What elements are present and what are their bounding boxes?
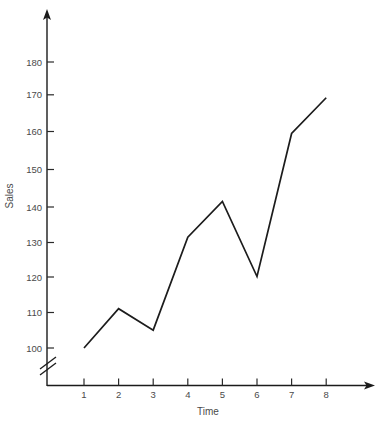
x-tick-label: 8 xyxy=(324,389,329,400)
x-tick-label: 1 xyxy=(81,389,86,400)
y-tick-100: 100 xyxy=(26,343,54,354)
x-tick-1: 1 xyxy=(81,379,86,401)
y-tick-label: 100 xyxy=(26,343,42,354)
y-axis-break-icon xyxy=(40,357,56,375)
x-axis-title: Time xyxy=(197,406,219,417)
y-tick-120: 120 xyxy=(26,272,54,283)
y-tick-label: 120 xyxy=(26,272,42,283)
line-chart: 180 170 160 150 140 130 xyxy=(0,0,383,424)
chart-page: 180 170 160 150 140 130 xyxy=(0,0,383,424)
y-tick-label: 140 xyxy=(26,202,42,213)
x-tick-6: 6 xyxy=(254,379,259,401)
y-tick-label: 180 xyxy=(26,57,42,68)
x-tick-label: 5 xyxy=(220,389,225,400)
x-tick-7: 7 xyxy=(289,379,294,401)
y-tick-130: 130 xyxy=(26,237,54,248)
y-tick-label: 170 xyxy=(26,89,42,100)
y-tick-label: 130 xyxy=(26,237,42,248)
y-tick-180: 180 xyxy=(26,57,54,68)
x-tick-2: 2 xyxy=(116,379,121,401)
x-tick-4: 4 xyxy=(185,379,190,401)
y-tick-140: 140 xyxy=(26,202,54,213)
y-tick-label: 150 xyxy=(26,164,42,175)
x-axis-group: 1 2 3 4 5 6 7 xyxy=(47,379,375,418)
y-tick-170: 170 xyxy=(26,89,54,100)
x-tick-label: 4 xyxy=(185,389,190,400)
y-tick-label: 160 xyxy=(26,126,42,137)
data-series-group xyxy=(84,98,326,348)
y-axis-title: Sales xyxy=(4,183,15,208)
y-tick-110: 110 xyxy=(27,307,54,318)
x-tick-3: 3 xyxy=(151,379,156,401)
axis-break-slash-lower xyxy=(40,363,56,375)
axis-break-slash-upper xyxy=(40,357,56,369)
x-tick-label: 3 xyxy=(151,389,156,400)
y-tick-150: 150 xyxy=(26,164,54,175)
x-tick-label: 7 xyxy=(289,389,294,400)
x-tick-8: 8 xyxy=(324,379,329,401)
sales-line-series xyxy=(84,98,326,348)
x-tick-label: 2 xyxy=(116,389,121,400)
y-axis-group: 180 170 160 150 140 130 xyxy=(4,9,56,386)
y-tick-160: 160 xyxy=(26,126,54,137)
x-tick-5: 5 xyxy=(220,379,225,401)
x-tick-label: 6 xyxy=(254,389,259,400)
y-tick-label: 110 xyxy=(27,307,42,318)
